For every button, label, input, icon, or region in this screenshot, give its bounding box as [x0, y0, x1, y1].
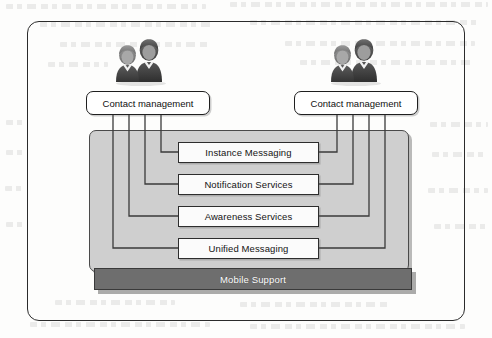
- contact-management-box-right[interactable]: Contact management: [294, 91, 418, 115]
- scanned-diagram-page: Instance Messaging Notification Services…: [0, 0, 492, 338]
- contact-management-box-left[interactable]: Contact management: [86, 91, 210, 115]
- service-box-notification-services[interactable]: Notification Services: [178, 174, 319, 195]
- service-box-unified-messaging[interactable]: Unified Messaging: [178, 238, 319, 259]
- service-label: Unified Messaging: [209, 243, 289, 254]
- service-label: Awareness Services: [205, 211, 293, 222]
- diagram-canvas: Instance Messaging Notification Services…: [0, 0, 492, 338]
- two-people-icon: [325, 31, 387, 87]
- contact-management-label: Contact management: [311, 98, 402, 109]
- service-box-awareness-services[interactable]: Awareness Services: [178, 206, 319, 227]
- person-figure-front: [331, 45, 354, 82]
- service-label: Notification Services: [204, 179, 292, 190]
- service-label: Instance Messaging: [205, 147, 291, 158]
- person-figure-back: [351, 39, 377, 82]
- person-figure-front: [116, 45, 139, 82]
- mobile-support-bar[interactable]: Mobile Support: [94, 268, 412, 290]
- two-people-icon: [110, 31, 172, 87]
- mobile-support-label: Mobile Support: [220, 274, 286, 285]
- contact-management-label: Contact management: [103, 98, 194, 109]
- service-box-instance-messaging[interactable]: Instance Messaging: [178, 142, 319, 163]
- person-figure-back: [136, 39, 162, 82]
